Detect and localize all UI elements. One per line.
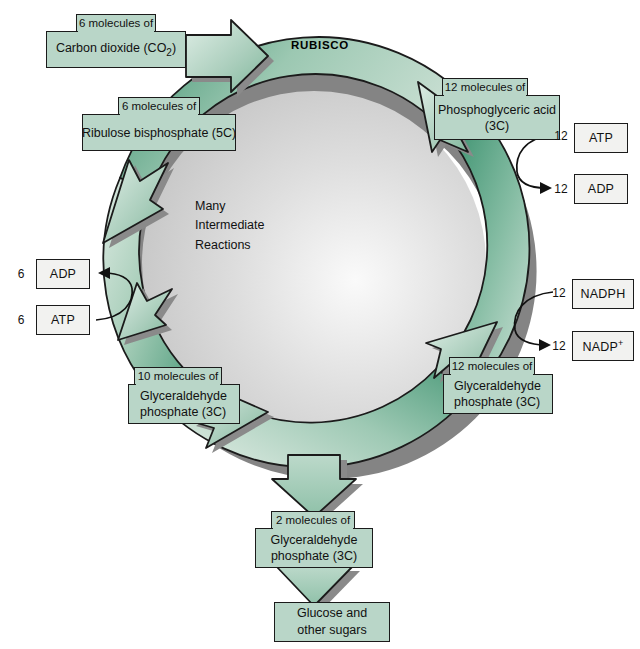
box-g3p-output-name: Glyceraldehyde phosphate (3C) bbox=[255, 528, 373, 568]
box-glucose: Glucose and other sugars bbox=[274, 602, 390, 642]
box-nadp-plus: NADP+ bbox=[572, 331, 634, 361]
box-atp-right: ATP bbox=[574, 123, 628, 153]
co2-name-head: Carbon dioxide (CO bbox=[56, 41, 166, 55]
box-ribulose: 6 molecules of Ribulose bisphosphate (5C… bbox=[82, 97, 236, 151]
box-atp-left: ATP bbox=[36, 305, 90, 335]
coef-atp-right: 12 bbox=[553, 128, 569, 144]
box-adp-left: ADP bbox=[36, 259, 90, 289]
coef-nadph: 12 bbox=[551, 285, 567, 301]
box-g3p-left-name: Glyceraldehyde phosphate (3C) bbox=[128, 384, 240, 424]
box-g3p-right-line1: Glyceraldehyde bbox=[454, 378, 541, 394]
box-nadph: NADPH bbox=[572, 279, 634, 309]
coef-adp-right: 12 bbox=[553, 181, 569, 197]
box-adp-right: ADP bbox=[574, 174, 628, 204]
connector-atp-adp bbox=[517, 135, 553, 172]
nadp-superscript: + bbox=[618, 338, 623, 348]
box-pga-name: Phosphoglyceric acid (3C) bbox=[434, 95, 560, 140]
calvin-cycle-diagram: RUBISCO Many Intermediate Reactions 6 mo… bbox=[0, 0, 640, 649]
coef-atp-left: 6 bbox=[14, 312, 28, 328]
box-glucose-line1: Glucose and bbox=[297, 605, 367, 622]
coef-adp-left: 6 bbox=[14, 266, 28, 282]
coef-nadp-plus: 12 bbox=[551, 338, 567, 354]
box-glucose-line2: other sugars bbox=[297, 622, 366, 639]
box-ribulose-name: Ribulose bisphosphate (5C) bbox=[82, 114, 236, 151]
co2-name-tail: ) bbox=[172, 41, 176, 55]
box-pga-line2: (3C) bbox=[485, 118, 509, 134]
box-pga-line1: Phosphoglyceric acid bbox=[438, 102, 556, 118]
box-g3p-left: 10 molecules of Glyceraldehyde phosphate… bbox=[128, 367, 240, 424]
box-g3p-output-line1: Glyceraldehyde bbox=[271, 532, 358, 548]
center-note: Many Intermediate Reactions bbox=[195, 197, 264, 255]
box-g3p-left-line1: Glyceraldehyde bbox=[140, 388, 227, 404]
box-g3p-output-line2: phosphate (3C) bbox=[271, 548, 357, 564]
nadp-label: NADP bbox=[583, 340, 619, 354]
box-g3p-right-line2: phosphate (3C) bbox=[454, 394, 540, 410]
box-g3p-right: 12 molecules of Glyceraldehyde phosphate… bbox=[443, 357, 553, 414]
box-carbon-dioxide-name: Carbon dioxide (CO2) bbox=[46, 31, 186, 68]
box-g3p-left-line2: phosphate (3C) bbox=[140, 404, 226, 420]
box-g3p-output: 2 molecules of Glyceraldehyde phosphate … bbox=[255, 511, 373, 568]
box-g3p-right-name: Glyceraldehyde phosphate (3C) bbox=[443, 374, 553, 414]
rubisco-label: RUBISCO bbox=[291, 39, 349, 51]
box-carbon-dioxide: 6 molecules of Carbon dioxide (CO2) bbox=[46, 14, 186, 68]
box-pga: 12 molecules of Phosphoglyceric acid (3C… bbox=[434, 78, 560, 140]
